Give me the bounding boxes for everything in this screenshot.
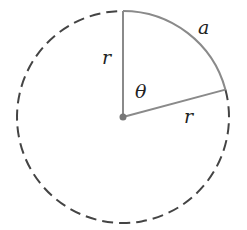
- label-radius-vertical: r: [102, 46, 113, 68]
- label-radius-slanted: r: [184, 105, 195, 127]
- label-arc-a: a: [198, 16, 209, 38]
- label-angle-theta: θ: [135, 80, 147, 102]
- solid-arc-a: [123, 11, 225, 90]
- center-point: [120, 114, 127, 121]
- circle-sector-diagram: a r θ r: [0, 0, 247, 230]
